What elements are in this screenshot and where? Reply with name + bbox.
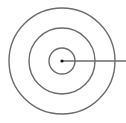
center-dot bbox=[60, 59, 63, 62]
concentric-circles-diagram bbox=[0, 0, 126, 123]
